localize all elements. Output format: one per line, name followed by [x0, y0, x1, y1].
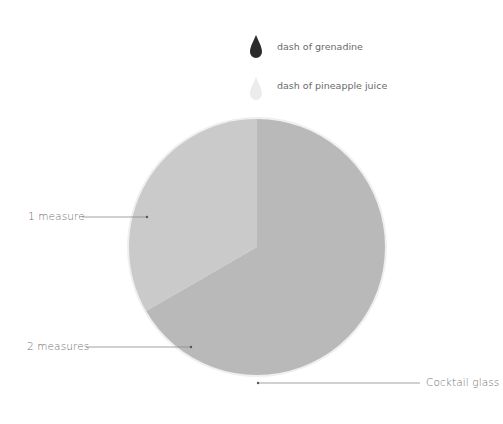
legend-label-pineapple-juice: dash of pineapple juice: [277, 80, 387, 91]
annotation-1-measure: 1 measure: [28, 210, 85, 222]
drop-icon: [250, 35, 262, 58]
annotation-cocktail-glass: Cocktail glass: [426, 376, 499, 388]
annotation-2-measures: 2 measures: [27, 340, 89, 352]
legend-label-grenadine: dash of grenadine: [277, 41, 363, 52]
drop-icon: [250, 77, 262, 100]
